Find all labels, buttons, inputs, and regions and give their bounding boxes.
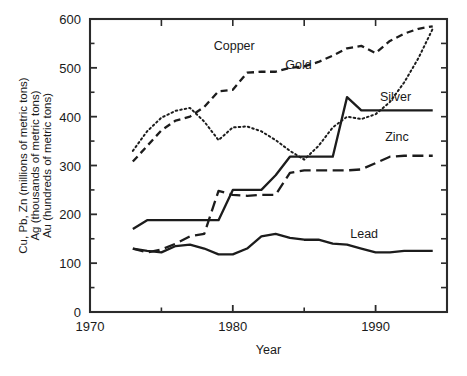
- series-labels: CopperGoldSilverZincLead: [214, 39, 411, 241]
- x-axis-title-text: Year: [256, 343, 281, 357]
- y-tick-label: 300: [59, 159, 81, 174]
- series-label-copper: Copper: [214, 39, 255, 53]
- y-axis-title: Cu, Pb, Zn (millions of metric tons)Ag (…: [17, 77, 53, 254]
- y-tick-label: 400: [59, 110, 81, 125]
- y-axis-ticks: 0100200300400500600: [59, 12, 447, 320]
- axes-box: [90, 19, 447, 312]
- series-label-gold: Gold: [285, 58, 311, 72]
- x-axis-title: Year: [256, 343, 281, 357]
- plot-frame: [90, 19, 447, 312]
- series-line-lead: [133, 234, 433, 255]
- chart-root: Cu, Pb, Zn (millions of metric tons)Ag (…: [0, 0, 467, 376]
- y-axis-title-line-3: Au (hundreds of metric tons): [41, 93, 53, 238]
- y-tick-label: 200: [59, 207, 81, 222]
- y-axis-title-line-1: Cu, Pb, Zn (millions of metric tons): [17, 77, 29, 254]
- x-tick-label: 1980: [218, 319, 247, 334]
- series-label-lead: Lead: [350, 227, 378, 241]
- y-tick-label: 100: [59, 256, 81, 271]
- y-axis-title-line-2: Ag (thousands of metric tons): [29, 90, 41, 240]
- series-label-zinc: Zinc: [385, 130, 409, 144]
- x-tick-label: 1970: [76, 319, 105, 334]
- metals-production-line-chart: Cu, Pb, Zn (millions of metric tons)Ag (…: [0, 0, 467, 376]
- series-line-zinc: [133, 156, 433, 253]
- y-tick-label: 0: [74, 305, 81, 320]
- series-line-silver: [133, 97, 433, 229]
- x-axis-ticks: 197019801990: [76, 19, 391, 334]
- series-label-silver: Silver: [380, 90, 411, 104]
- y-tick-label: 600: [59, 12, 81, 27]
- y-tick-label: 500: [59, 61, 81, 76]
- x-tick-label: 1990: [361, 319, 390, 334]
